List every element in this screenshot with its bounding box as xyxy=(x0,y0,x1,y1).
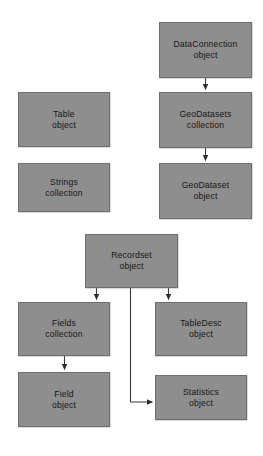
node-strings-line2: collection xyxy=(45,188,83,199)
node-strings[interactable]: Strings collection xyxy=(18,163,110,212)
node-tabledesc-line2: object xyxy=(189,329,213,340)
node-field-line1: Field xyxy=(54,389,74,400)
node-recordset-line2: object xyxy=(120,261,144,272)
node-fields-line1: Fields xyxy=(52,318,76,329)
node-tabledesc-line1: TableDesc xyxy=(180,318,222,329)
node-geodataset-line2: object xyxy=(194,191,218,202)
node-geodataset-line1: GeoDataset xyxy=(182,180,230,191)
node-statistics-line1: Statistics xyxy=(183,387,219,398)
node-table-line2: object xyxy=(52,120,76,131)
node-field-line2: object xyxy=(52,400,76,411)
node-recordset[interactable]: Recordset object xyxy=(85,234,178,288)
node-field[interactable]: Field object xyxy=(18,372,110,427)
node-tabledesc[interactable]: TableDesc object xyxy=(155,302,247,356)
node-geodatasets-line2: collection xyxy=(187,120,225,131)
node-geodatasets-line1: GeoDatasets xyxy=(179,109,231,120)
diagram-canvas: DataConnection object Table object GeoDa… xyxy=(0,0,263,456)
node-dataconnection-line1: DataConnection xyxy=(173,39,237,50)
node-table-line1: Table xyxy=(53,109,74,120)
node-strings-line1: Strings xyxy=(50,177,78,188)
node-table[interactable]: Table object xyxy=(18,92,110,147)
node-fields[interactable]: Fields collection xyxy=(18,302,110,356)
node-dataconnection-line2: object xyxy=(194,50,218,61)
node-dataconnection[interactable]: DataConnection object xyxy=(159,22,252,78)
node-recordset-line1: Recordset xyxy=(111,250,152,261)
node-fields-line2: collection xyxy=(45,329,83,340)
node-geodataset[interactable]: GeoDataset object xyxy=(159,163,252,219)
node-statistics-line2: object xyxy=(189,398,213,409)
connector-recordset-to-statistics xyxy=(131,288,153,402)
node-geodatasets[interactable]: GeoDatasets collection xyxy=(159,92,252,148)
node-statistics[interactable]: Statistics object xyxy=(155,375,247,420)
